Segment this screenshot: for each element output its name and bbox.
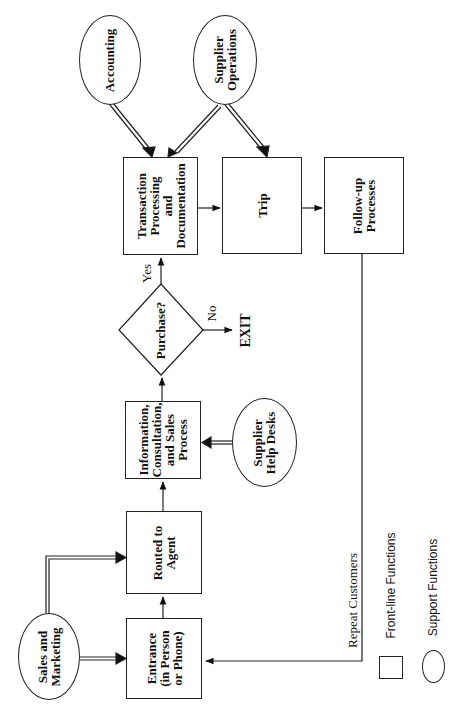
edge-label-repeat-customers: Repeat Customers	[344, 540, 360, 660]
node-routed-to-agent-label: Routed to Agent	[151, 525, 177, 580]
node-sales-and-marketing: Sales and Marketing	[18, 613, 80, 700]
legend-circle-icon	[422, 650, 445, 683]
node-supplier-operations-label: Supplier Operations	[212, 29, 238, 91]
node-entrance: Entrance (in Person or Phone)	[126, 618, 202, 699]
edge-label-no: No	[202, 302, 222, 324]
node-exit-label: EXIT	[239, 313, 252, 347]
node-information-consultation-label: Information, Consultation, and Sales Pro…	[137, 403, 189, 478]
node-trip-label: Trip	[255, 193, 268, 217]
node-supplier-operations: Supplier Operations	[193, 15, 257, 105]
node-exit: EXIT	[230, 315, 260, 345]
double-arrow-sales-to-entrance	[80, 653, 126, 664]
edge-label-yes: Yes	[136, 260, 156, 286]
node-transaction-processing-label: Transaction Processing and Documentation	[135, 163, 187, 248]
node-follow-up-processes: Follow-up Processes	[324, 157, 404, 254]
double-arrow-supplier-ops-to-trip	[225, 103, 269, 157]
legend-support-functions: Support Functions	[424, 532, 444, 642]
node-sales-and-marketing-label: Sales and Marketing	[36, 627, 62, 686]
double-arrow-supplier-ops-to-transaction	[168, 105, 221, 157]
node-follow-up-processes-label: Follow-up Processes	[351, 177, 377, 233]
node-transaction-processing: Transaction Processing and Documentation	[123, 157, 198, 255]
node-supplier-help-desks-label: Supplier Help Desks	[251, 411, 277, 473]
node-supplier-help-desks: Supplier Help Desks	[232, 398, 297, 487]
node-purchase-label: Purchase?	[154, 301, 167, 359]
double-arrow-sales-to-routed	[46, 552, 126, 613]
node-accounting: Accounting	[79, 15, 141, 105]
node-trip: Trip	[222, 157, 302, 254]
node-entrance-label: Entrance (in Person or Phone)	[144, 630, 183, 687]
node-routed-to-agent: Routed to Agent	[126, 511, 202, 594]
legend-square-icon	[379, 656, 403, 679]
legend-front-line-functions: Front-line Functions	[381, 525, 401, 645]
node-accounting-label: Accounting	[104, 28, 117, 92]
node-information-consultation: Information, Consultation, and Sales Pro…	[125, 401, 201, 479]
double-arrow-helpdesks-to-info	[202, 437, 232, 448]
double-arrow-accounting-to-transaction	[110, 103, 155, 157]
node-purchase-decision: Purchase?	[131, 300, 191, 360]
